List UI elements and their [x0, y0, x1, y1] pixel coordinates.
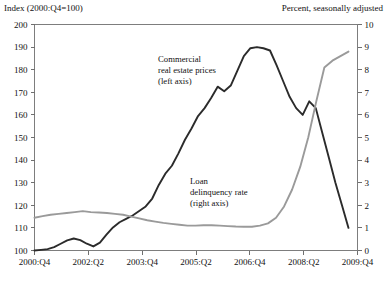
- y2-axis-tick-label: 8: [365, 65, 370, 75]
- y2-axis-tick-label: 2: [365, 201, 370, 211]
- x-axis-tick-label: 2003:Q4: [126, 257, 158, 267]
- y2-axis-tick-label: 3: [365, 178, 370, 188]
- y-axis-tick-label: 170: [14, 88, 28, 98]
- y-axis-tick-label: 190: [14, 42, 28, 52]
- annotation-line: Commercial: [158, 54, 202, 64]
- y-axis-tick-label: 140: [14, 155, 28, 165]
- commercial-real-estate-prices-label: Commercialreal estate prices(left axis): [158, 54, 217, 86]
- y-axis-tick-label: 180: [14, 65, 28, 75]
- loan-delinquency-rate-label: Loandelinquency rate(right axis): [190, 176, 248, 208]
- y-axis-tick-label: 150: [14, 133, 28, 143]
- x-axis-tick-label: 2009:Q4: [342, 257, 374, 267]
- y-axis-tick-label: 160: [14, 110, 28, 120]
- x-axis-tick-label: 2005:Q2: [180, 257, 212, 267]
- y2-axis-tick-label: 10: [365, 20, 375, 30]
- y-axis-tick-label: 110: [14, 223, 28, 233]
- y2-axis-tick-label: 1: [365, 223, 370, 233]
- x-axis-tick-label: 2008:Q2: [288, 257, 320, 267]
- annotation-line: (left axis): [158, 76, 192, 86]
- y2-axis-tick-label: 5: [365, 133, 370, 143]
- x-axis-tick-label: 2006:Q4: [234, 257, 266, 267]
- x-axis-tick-label: 2002:Q2: [73, 257, 105, 267]
- y-axis-tick-label: 100: [14, 246, 28, 256]
- annotation-line: delinquency rate: [190, 187, 248, 197]
- x-axis-tick-label: 2000:Q4: [19, 257, 51, 267]
- y2-axis-tick-label: 6: [365, 110, 370, 120]
- annotation-line: Loan: [190, 176, 209, 186]
- chart-plot-area: 1001101201301401501601701801902000123456…: [0, 0, 387, 284]
- y2-axis-tick-label: 9: [365, 42, 370, 52]
- y2-axis-tick-label: 7: [365, 88, 370, 98]
- y2-axis-tick-label: 4: [365, 155, 370, 165]
- y-axis-tick-label: 120: [14, 201, 28, 211]
- y-axis-tick-label: 130: [14, 178, 28, 188]
- y-axis-tick-label: 200: [14, 20, 28, 30]
- chart-figure: Index (2000:Q4=100) Percent, seasonally …: [0, 0, 387, 284]
- annotation-line: real estate prices: [158, 65, 217, 75]
- annotation-line: (right axis): [190, 198, 228, 208]
- y2-axis-tick-label: 0: [365, 246, 370, 256]
